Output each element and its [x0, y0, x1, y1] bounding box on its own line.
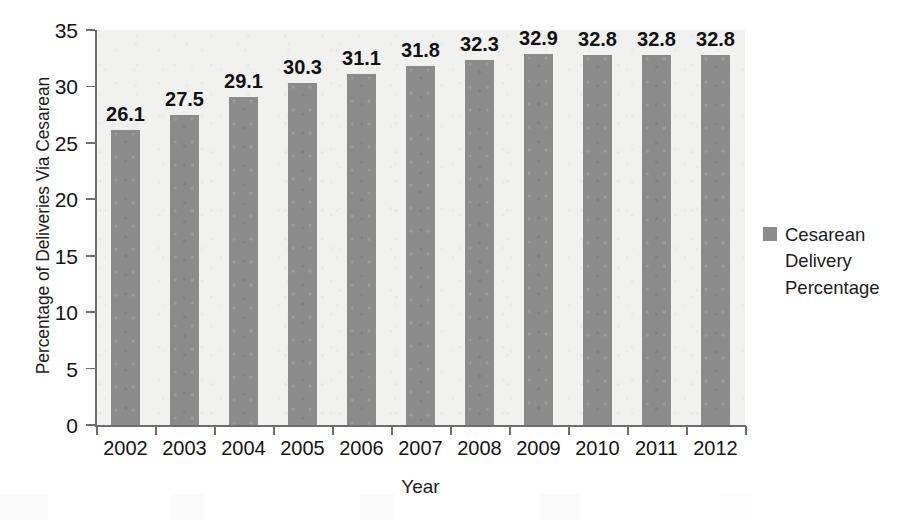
x-axis-tick-mark: [155, 426, 157, 435]
y-axis-tick-mark: [86, 424, 95, 426]
x-axis-tick-mark: [450, 426, 452, 435]
x-axis-tick-mark: [568, 426, 570, 435]
bar: [701, 55, 731, 425]
bar: [229, 97, 259, 425]
y-axis-tick-mark: [86, 368, 95, 370]
y-axis-tick-label: 20: [32, 189, 78, 210]
bar: [111, 130, 141, 425]
y-axis-tick-label: 10: [32, 302, 78, 323]
bar-texture: [347, 74, 377, 425]
bar-texture: [524, 54, 554, 425]
bar: [465, 60, 495, 425]
bar-value-label: 32.8: [676, 29, 756, 49]
bar-texture: [229, 97, 259, 425]
y-axis-tick-mark: [86, 311, 95, 313]
bar: [406, 66, 436, 425]
bar-texture: [406, 66, 436, 425]
bar-value-label: 27.5: [145, 89, 225, 109]
legend-swatch-icon: [763, 227, 777, 241]
x-axis-tick-mark: [686, 426, 688, 435]
y-axis-tick-label: 25: [32, 133, 78, 154]
x-axis-tick-mark: [627, 426, 629, 435]
bar: [583, 55, 613, 425]
bar: [642, 55, 672, 425]
y-axis-tick-label: 0: [32, 415, 78, 436]
bar: [347, 74, 377, 425]
x-axis-tick-mark: [273, 426, 275, 435]
bar-texture: [170, 115, 200, 425]
y-axis-tick-mark: [86, 86, 95, 88]
bar-texture: [465, 60, 495, 425]
y-axis-tick-mark: [86, 198, 95, 200]
x-axis-tick-mark: [391, 426, 393, 435]
bar: [524, 54, 554, 425]
y-axis-tick-label: 35: [32, 20, 78, 41]
x-axis-tick-mark: [332, 426, 334, 435]
x-axis-tick-mark: [509, 426, 511, 435]
y-axis-tick-mark: [86, 255, 95, 257]
y-axis-tick-label: 30: [32, 76, 78, 97]
x-axis-tick-mark: [745, 426, 747, 435]
y-axis-tick-label: 5: [32, 359, 78, 380]
x-axis-title: Year: [96, 476, 745, 498]
bar-texture: [583, 55, 613, 425]
bar-texture: [288, 83, 318, 425]
y-axis-tick-mark: [86, 142, 95, 144]
y-axis-line: [95, 30, 97, 426]
x-axis-tick-label: 2012: [676, 438, 756, 458]
bar-texture: [642, 55, 672, 425]
legend-label: Cesarean Delivery Percentage: [785, 222, 901, 301]
bar-texture: [701, 55, 731, 425]
bar: [170, 115, 200, 425]
x-axis-tick-mark: [96, 426, 98, 435]
x-axis-tick-mark: [214, 426, 216, 435]
x-axis-line: [95, 425, 746, 427]
y-axis-tick-label: 15: [32, 246, 78, 267]
bar-texture: [111, 130, 141, 425]
bar-chart-figure: Percentage of Deliveries Via Cesarean 05…: [0, 0, 901, 520]
chart-legend: Cesarean Delivery Percentage: [763, 222, 901, 301]
y-axis-tick-mark: [86, 29, 95, 31]
bar: [288, 83, 318, 425]
